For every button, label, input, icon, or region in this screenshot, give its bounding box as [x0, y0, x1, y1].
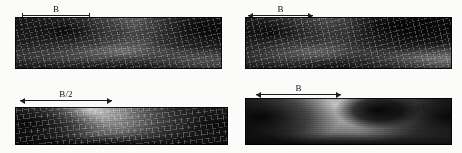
dimension-arrow-right-d — [336, 92, 341, 98]
dimension-bar-a — [22, 15, 90, 16]
surface-border-c — [15, 107, 228, 145]
dimension-annotation-b: B — [248, 3, 313, 17]
surface-plot-b — [245, 17, 452, 69]
panel-label-b: (b) — [432, 21, 442, 31]
dimension-bar-c — [20, 100, 112, 101]
panel-label-c: (c) — [206, 112, 215, 122]
dimension-annotation-c: B/2 — [20, 88, 112, 102]
panel-label-d: (d) — [417, 102, 427, 112]
dimension-label-d: B — [256, 84, 341, 93]
dimension-bar-b — [248, 15, 313, 16]
figure-container: B (a) B (b) — [0, 0, 462, 153]
dimension-label-c: B/2 — [20, 90, 112, 99]
dimension-arrow-left-d — [256, 92, 261, 98]
dimension-arrow-left-c — [20, 98, 25, 104]
dimension-arrow-right-c — [107, 98, 112, 104]
dimension-label-b: B — [248, 5, 313, 14]
surface-border-a — [15, 17, 222, 69]
dimension-label-a: B — [22, 5, 90, 14]
dimension-annotation-a: B — [22, 3, 90, 17]
surface-plot-c — [15, 107, 228, 145]
surface-plot-a — [15, 17, 222, 69]
dimension-bar-d — [256, 94, 341, 95]
dimension-annotation-d: B — [256, 82, 341, 96]
panel-label-a: (a) — [203, 21, 212, 31]
surface-border-b — [245, 17, 452, 69]
